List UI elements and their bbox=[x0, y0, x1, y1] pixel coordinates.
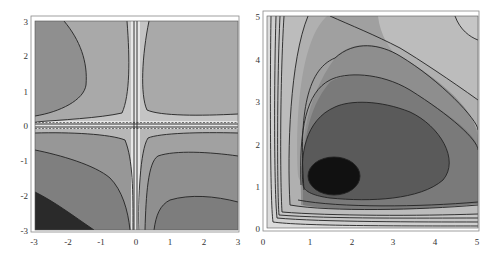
right-contour-plot: 0 1 2 3 4 5 5 4 3 2 1 0 bbox=[256, 11, 480, 247]
x-tick: -2 bbox=[64, 237, 72, 247]
y-tick: 2 bbox=[24, 51, 29, 61]
x-tick: 2 bbox=[350, 237, 355, 247]
x-tick: 1 bbox=[168, 237, 173, 247]
x-tick: -3 bbox=[30, 237, 38, 247]
y-tick: 0 bbox=[256, 224, 261, 234]
y-tick: -3 bbox=[21, 226, 29, 236]
x-tick: 2 bbox=[202, 237, 207, 247]
y-tick: 1 bbox=[256, 182, 261, 192]
left-contour-plot: -3 -2 -1 0 1 2 3 3 2 1 0 -1 -2 -3 bbox=[21, 16, 241, 247]
x-tick: -1 bbox=[97, 237, 105, 247]
right-x-axis: 0 1 2 3 4 5 bbox=[261, 237, 480, 247]
left-y-axis: 3 2 1 0 -1 -2 -3 bbox=[21, 17, 29, 236]
right-y-axis: 5 4 3 2 1 0 bbox=[256, 12, 261, 234]
x-tick: 3 bbox=[236, 237, 241, 247]
left-x-axis: -3 -2 -1 0 1 2 3 bbox=[30, 237, 241, 247]
x-tick: 0 bbox=[261, 237, 266, 247]
y-tick: 5 bbox=[256, 12, 261, 22]
y-tick: 3 bbox=[256, 97, 261, 107]
y-tick: 1 bbox=[24, 87, 29, 97]
y-tick: -2 bbox=[21, 191, 29, 201]
y-tick: 2 bbox=[256, 140, 261, 150]
y-tick: 4 bbox=[256, 55, 261, 65]
x-tick: 3 bbox=[391, 237, 396, 247]
x-tick: 0 bbox=[134, 237, 139, 247]
x-tick: 4 bbox=[433, 237, 438, 247]
y-tick: 3 bbox=[24, 17, 29, 27]
y-tick: -1 bbox=[21, 156, 29, 166]
x-tick: 1 bbox=[308, 237, 313, 247]
x-tick: 5 bbox=[475, 237, 480, 247]
figure: -3 -2 -1 0 1 2 3 3 2 1 0 -1 -2 -3 bbox=[0, 0, 498, 257]
y-tick: 0 bbox=[24, 121, 29, 131]
